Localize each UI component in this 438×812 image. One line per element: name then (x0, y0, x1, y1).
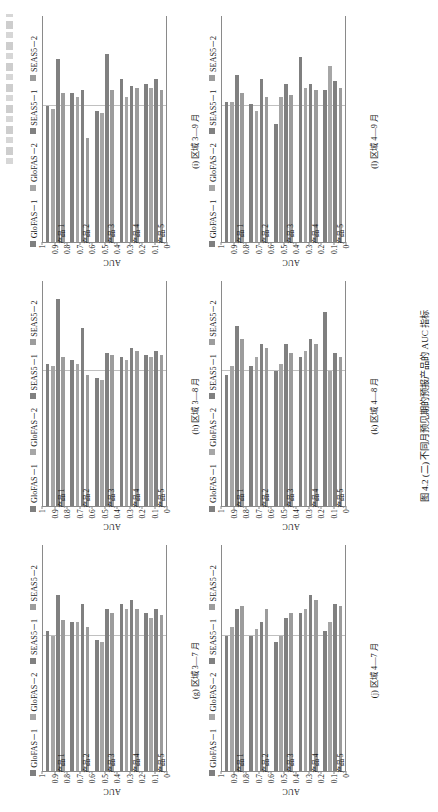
bar-group (322, 545, 343, 771)
bar-group (322, 16, 343, 242)
legend-swatch-icon (209, 604, 215, 610)
legend-label: SEAS5－1 (27, 619, 39, 655)
bar (105, 54, 109, 241)
bar (230, 366, 234, 506)
y-tick-label: 1 (38, 509, 47, 533)
y-tick-label: 0.3 (304, 245, 313, 269)
legend-label: SEAS5－1 (206, 354, 218, 390)
legend-item: SEAS5－2 (27, 565, 39, 610)
legend-swatch-icon (30, 770, 36, 776)
plot-frame (221, 16, 346, 243)
bar-group (45, 281, 66, 507)
legend-label: GloFAS－2 (27, 673, 39, 712)
bar (76, 364, 80, 506)
y-tick-label: 0.7 (75, 774, 84, 798)
bar-group (119, 16, 140, 242)
bar (154, 609, 158, 771)
bar-group (298, 545, 319, 771)
y-tick-label: 0.4 (113, 245, 122, 269)
plot-area: AUC10.90.80.70.60.50.40.30.20.10产品 1产品 2… (40, 543, 183, 798)
chart-panel-l: GloFAS－1GloFAS－2SEAS5－1SEAS5－2AUC10.90.8… (205, 14, 378, 269)
bar-group (248, 281, 269, 507)
bar (135, 609, 139, 771)
bar (61, 357, 65, 506)
legend-item: SEAS5－1 (206, 90, 218, 135)
legend-item: SEAS5－2 (206, 565, 218, 610)
legend-swatch-icon (30, 339, 36, 345)
bar (95, 640, 99, 771)
y-tick-label: 0.3 (125, 245, 134, 269)
bar (160, 615, 164, 771)
chart-legend: GloFAS－1GloFAS－2SEAS5－1SEAS5－2 (26, 543, 39, 798)
bar (284, 344, 288, 506)
y-tick-label: 0.6 (267, 509, 276, 533)
legend-label: GloFAS－1 (206, 464, 218, 503)
legend-swatch-icon (209, 714, 215, 720)
bar (333, 604, 337, 771)
bar (309, 595, 313, 771)
legend-label: GloFAS－2 (206, 408, 218, 447)
chart-panel-k: GloFAS－1GloFAS－2SEAS5－1SEAS5－2AUC10.90.8… (205, 279, 378, 534)
bar (314, 600, 318, 771)
bar-group (298, 16, 319, 242)
bar (135, 351, 139, 507)
bar (328, 66, 332, 242)
y-tick-label: 0.9 (229, 774, 238, 798)
legend-label: SEAS5－2 (206, 36, 218, 72)
bar (51, 636, 55, 771)
legend-swatch-icon (30, 449, 36, 455)
bar (265, 97, 269, 241)
y-tick-label: 0.2 (317, 774, 326, 798)
legend-swatch-icon (209, 770, 215, 776)
subplot-caption: (j) 区域 4—7 月 (367, 543, 379, 798)
bar (328, 371, 332, 506)
y-tick-label: 0.2 (138, 245, 147, 269)
y-tick-label: 0.9 (50, 509, 59, 533)
legend-label: SEAS5－2 (27, 36, 39, 72)
bar (230, 627, 234, 771)
bar (289, 95, 293, 242)
bar (255, 357, 259, 506)
y-tick-label: 1 (217, 509, 226, 533)
y-tick-label: 0.8 (63, 245, 72, 269)
bar (61, 93, 65, 242)
legend-item: GloFAS－1 (27, 464, 39, 511)
bar (289, 353, 293, 506)
bar (230, 102, 234, 242)
bar (240, 339, 244, 506)
plot-area: AUC10.90.80.70.60.50.40.30.20.10产品 1产品 2… (219, 279, 362, 534)
y-tick-label: 0.7 (75, 509, 84, 533)
legend-swatch-icon (209, 241, 215, 247)
bar-group (143, 281, 164, 507)
y-tick-label: 0.4 (113, 774, 122, 798)
y-tick-label: 1 (217, 774, 226, 798)
bar-group (224, 545, 245, 771)
y-tick-label: 0.8 (242, 245, 251, 269)
legend-item: GloFAS－2 (27, 408, 39, 455)
legend-swatch-icon (30, 75, 36, 81)
bar-group (273, 545, 294, 771)
legend-swatch-icon (209, 506, 215, 512)
y-tick-label: 0.2 (317, 509, 326, 533)
legend-swatch-icon (209, 75, 215, 81)
legend-label: GloFAS－1 (27, 200, 39, 239)
plot-area: AUC10.90.80.70.60.50.40.30.20.10产品 1产品 2… (219, 14, 362, 269)
bar (61, 620, 65, 771)
y-tick-label: 0.7 (254, 774, 263, 798)
bar (70, 360, 74, 507)
legend-swatch-icon (209, 185, 215, 191)
y-tick-label: 0.5 (100, 245, 109, 269)
bar-group (119, 281, 140, 507)
bar (100, 113, 104, 242)
bar (333, 81, 337, 241)
chart-legend: GloFAS－1GloFAS－2SEAS5－1SEAS5－2 (205, 14, 218, 269)
bar (160, 90, 164, 241)
bar-group (69, 281, 90, 507)
bar-group (224, 16, 245, 242)
y-tick-label: 0.7 (254, 509, 263, 533)
bar (76, 97, 80, 241)
bar-group (69, 545, 90, 771)
bar-group (45, 16, 66, 242)
y-tick-label: 0.6 (88, 509, 97, 533)
bar (274, 642, 278, 771)
